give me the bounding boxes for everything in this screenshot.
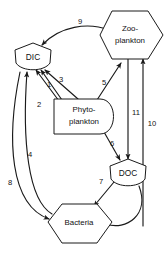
food-web-diagram: DIC Zoo- plankton Phyto- plankton DOC Ba… xyxy=(0,0,166,262)
edge-label-8: 8 xyxy=(8,178,12,187)
node-bacteria[interactable]: Bacteria xyxy=(48,204,112,243)
bacteria-label: Bacteria xyxy=(65,218,95,227)
edge-9-zooplankton-to-dic xyxy=(42,26,109,45)
zooplankton-label-line1: Zoo- xyxy=(122,24,139,33)
edge-label-10: 10 xyxy=(148,119,156,128)
dic-label: DIC xyxy=(26,52,40,62)
doc-label: DOC xyxy=(119,168,137,178)
edge-5-phytoplankton-to-zooplankton xyxy=(97,63,121,100)
node-phytoplankton[interactable]: Phyto- plankton xyxy=(54,99,114,134)
edge-label-7: 7 xyxy=(99,177,103,186)
edge-label-11: 11 xyxy=(132,108,140,117)
edge-doc-bacteria-outer-curve xyxy=(106,186,142,226)
node-doc[interactable]: DOC xyxy=(110,159,146,186)
node-dic[interactable]: DIC xyxy=(15,43,51,70)
edge-4-bacteria-to-dic xyxy=(25,72,52,214)
edge-label-1: 1 xyxy=(47,80,51,89)
diagram-canvas: DIC Zoo- plankton Phyto- plankton DOC Ba… xyxy=(0,0,166,262)
zooplankton-label-line2: plankton xyxy=(115,36,145,45)
edge-label-9: 9 xyxy=(78,17,82,26)
edge-label-3: 3 xyxy=(59,75,63,84)
edge-label-5: 5 xyxy=(102,78,106,87)
edge-label-6: 6 xyxy=(110,139,114,148)
phytoplankton-label-line2: plankton xyxy=(69,117,99,126)
edge-label-2: 2 xyxy=(37,100,41,109)
edge-7-doc-to-bacteria xyxy=(94,182,114,206)
node-zooplankton[interactable]: Zoo- plankton xyxy=(100,11,163,59)
zooplankton-shape xyxy=(100,11,163,59)
edge-label-4: 4 xyxy=(28,150,32,159)
phytoplankton-label-line1: Phyto- xyxy=(73,105,96,114)
edge-8-dic-to-bacteria xyxy=(13,72,49,219)
